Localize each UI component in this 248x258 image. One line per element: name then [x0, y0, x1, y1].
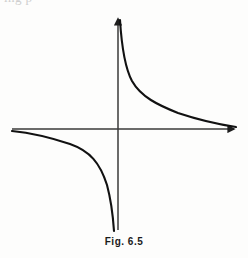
- hyperbola-branch-upper-right: [120, 20, 236, 127]
- hyperbola-branch-lower-left: [12, 131, 114, 231]
- figure-container: ing p Fig. 6.5: [0, 0, 248, 258]
- hyperbola-plot: [0, 0, 248, 258]
- figure-caption: Fig. 6.5: [0, 236, 248, 247]
